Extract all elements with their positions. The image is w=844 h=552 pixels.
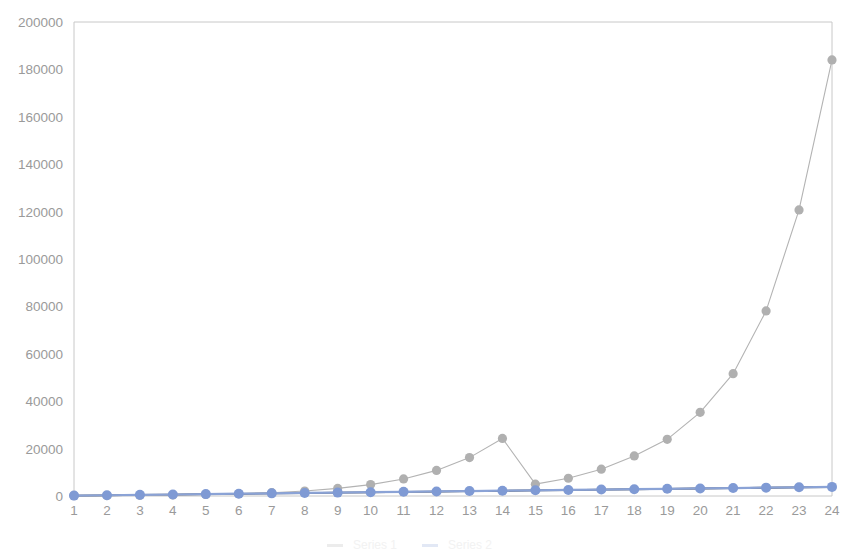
data-point-marker — [465, 453, 474, 462]
y-tick-label: 100000 — [18, 252, 63, 267]
x-tick-label: 21 — [726, 503, 741, 518]
y-tick-label: 180000 — [18, 62, 63, 77]
x-tick-label: 8 — [301, 503, 309, 518]
data-point-marker — [267, 488, 277, 498]
x-tick-label: 4 — [169, 503, 177, 518]
legend-swatch — [422, 544, 438, 547]
data-point-marker — [564, 474, 573, 483]
data-point-marker — [201, 489, 211, 499]
data-point-marker — [596, 485, 606, 495]
x-tick-label: 1 — [70, 503, 78, 518]
data-point-marker — [432, 466, 441, 475]
data-point-marker — [399, 474, 408, 483]
x-tick-label: 19 — [660, 503, 675, 518]
x-tick-label: 17 — [594, 503, 609, 518]
data-point-marker — [794, 205, 803, 214]
x-tick-label: 9 — [334, 503, 342, 518]
data-point-marker — [563, 485, 573, 495]
data-point-marker — [464, 486, 474, 496]
data-point-marker — [761, 483, 771, 493]
legend-label: Series 2 — [448, 538, 492, 552]
data-point-marker — [696, 408, 705, 417]
x-tick-label: 12 — [429, 503, 444, 518]
data-point-marker — [827, 482, 837, 492]
data-point-marker — [695, 483, 705, 493]
x-tick-label: 11 — [397, 503, 411, 518]
data-point-marker — [168, 489, 178, 499]
data-point-marker — [827, 55, 836, 64]
data-point-marker — [662, 484, 672, 494]
x-tick-label: 2 — [103, 503, 111, 518]
x-tick-label: 22 — [759, 503, 774, 518]
x-tick-label: 20 — [693, 503, 708, 518]
x-tick-label: 15 — [528, 503, 543, 518]
data-point-marker — [497, 486, 507, 496]
data-point-marker — [663, 435, 672, 444]
x-tick-label: 24 — [824, 503, 840, 518]
data-point-marker — [630, 451, 639, 460]
data-point-marker — [530, 485, 540, 495]
data-point-marker — [399, 487, 409, 497]
chart-container: 0200004000060000800001000001200001400001… — [0, 0, 844, 552]
y-tick-label: 200000 — [18, 15, 63, 30]
data-point-marker — [629, 484, 639, 494]
y-tick-label: 160000 — [18, 110, 63, 125]
legend-swatch — [327, 544, 343, 547]
x-tick-label: 23 — [792, 503, 807, 518]
data-point-marker — [597, 465, 606, 474]
x-tick-label: 18 — [627, 503, 642, 518]
x-tick-label: 7 — [268, 503, 276, 518]
data-point-marker — [432, 486, 442, 496]
data-point-marker — [761, 306, 770, 315]
y-tick-label: 120000 — [18, 205, 63, 220]
x-tick-label: 13 — [462, 503, 477, 518]
y-tick-label: 140000 — [18, 157, 63, 172]
data-point-marker — [794, 482, 804, 492]
y-tick-label: 40000 — [25, 394, 63, 409]
data-point-marker — [135, 490, 145, 500]
data-point-marker — [729, 369, 738, 378]
data-point-marker — [333, 488, 343, 498]
data-point-marker — [300, 488, 310, 498]
y-tick-label: 0 — [55, 489, 63, 504]
x-tick-label: 10 — [363, 503, 378, 518]
data-point-marker — [366, 487, 376, 497]
x-tick-label: 6 — [235, 503, 243, 518]
line-chart: 0200004000060000800001000001200001400001… — [0, 0, 844, 552]
x-tick-label: 3 — [136, 503, 144, 518]
y-tick-label: 60000 — [25, 347, 63, 362]
legend-label: Series 1 — [353, 538, 397, 552]
x-tick-label: 5 — [202, 503, 210, 518]
y-tick-label: 20000 — [25, 442, 63, 457]
data-point-marker — [102, 490, 112, 500]
data-point-marker — [234, 489, 244, 499]
x-tick-label: 16 — [561, 503, 576, 518]
chart-background — [0, 0, 844, 552]
data-point-marker — [728, 483, 738, 493]
y-tick-label: 80000 — [25, 299, 63, 314]
data-point-marker — [69, 491, 79, 501]
x-tick-label: 14 — [495, 503, 511, 518]
data-point-marker — [498, 434, 507, 443]
